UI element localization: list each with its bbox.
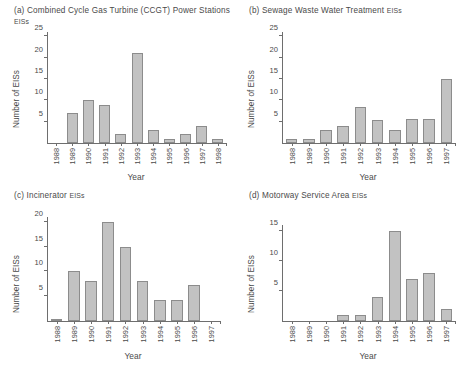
panel-b-x-tick	[446, 143, 447, 146]
panel-c-y-tick-label: 15	[35, 233, 43, 242]
bar	[320, 130, 332, 143]
bar-slot	[300, 225, 317, 321]
panel-c: (c) Incinerator EISs Number of EISs 5101…	[0, 185, 235, 370]
panel-c-title: (c) Incinerator EISs	[14, 191, 230, 202]
panel-d-y-tick	[279, 230, 283, 231]
panel-b-title-suffix: EISs	[387, 7, 402, 14]
bar-slot	[82, 217, 99, 321]
panel-a-x-tick-label: 1996	[181, 148, 190, 164]
bar-slot	[186, 217, 203, 321]
panel-b-y-tick	[279, 57, 283, 58]
bar-slot	[65, 217, 82, 321]
panel-a-x-tick-label: 1997	[197, 148, 206, 164]
panel-d-y-tick-label: 10	[270, 248, 278, 257]
bar	[441, 79, 453, 143]
bar	[372, 297, 384, 321]
panel-b-y-tick-label: 20	[270, 44, 278, 53]
bar	[355, 107, 367, 143]
panel-b-x-tick	[326, 143, 327, 146]
panel-b-x-tick-label: 1993	[373, 148, 382, 164]
bar-slot	[300, 32, 317, 143]
bar-slot	[117, 217, 134, 321]
panel-a-x-tick-label: 1994	[149, 148, 158, 164]
bar-slot	[100, 217, 117, 321]
panel-b-x-tick	[395, 143, 396, 146]
panel-c-title-main: (c) Incinerator	[14, 191, 69, 200]
panel-b-title-main: (b) Sewage Waste Water Treatment	[249, 6, 387, 15]
panel-a-x-tick	[202, 143, 203, 146]
panel-d-x-tick-label: 1997	[442, 326, 451, 342]
bar	[154, 300, 166, 321]
panel-a-x-tick	[186, 143, 187, 146]
panel-b-y-tick-label: 15	[270, 65, 278, 74]
panel-a-x-tick	[218, 143, 219, 146]
panel-c-y-axis-label: Number of EISs	[12, 255, 21, 313]
bar	[68, 271, 80, 321]
panel-a-x-tick	[72, 143, 73, 146]
panel-b-x-tick-label: 1994	[390, 148, 399, 164]
panel-b-x-tick-label: 1995	[408, 148, 417, 164]
bar-slot	[335, 32, 352, 143]
panel-c-x-tick-label: 1988	[52, 326, 61, 342]
panel-d: (d) Motorway Service Area EISs Number of…	[235, 185, 470, 370]
panel-c-x-tick	[125, 321, 126, 324]
panel-c-x-tick-label: 1994	[155, 326, 164, 342]
figure-panel-grid: (a) Combined Cycle Gas Turbine (CCGT) Po…	[0, 0, 470, 370]
panel-a-title-suffix: EISs	[14, 18, 29, 25]
panel-a-x-tick-label: 1989	[68, 148, 77, 164]
panel-b-x-tick-label: 1991	[339, 148, 348, 164]
bar-slot	[48, 217, 65, 321]
panel-d-x-tick	[412, 321, 413, 324]
panel-d-x-axis-label: Year	[282, 351, 454, 361]
bar-slot	[352, 32, 369, 143]
panel-d-x-tick-label: 1994	[390, 326, 399, 342]
panel-a-title-main: (a) Combined Cycle Gas Turbine (CCGT) Po…	[14, 6, 230, 15]
panel-d-title: (d) Motorway Service Area EISs	[249, 191, 465, 202]
bar-slot	[421, 32, 438, 143]
panel-c-y-tick-label: 10	[35, 258, 43, 267]
panel-a: (a) Combined Cycle Gas Turbine (CCGT) Po…	[0, 0, 235, 185]
panel-d-x-tick-label: 1990	[322, 326, 331, 342]
bar-slot	[421, 225, 438, 321]
panel-c-y-tick-label: 5	[39, 283, 43, 292]
panel-d-y-tick	[279, 260, 283, 261]
panel-c-x-tick	[194, 321, 195, 324]
panel-d-title-suffix: EISs	[352, 192, 367, 199]
panel-c-title-suffix: EISs	[69, 192, 84, 199]
panel-a-plot-area: 5101520251988198919901991199219931994199…	[47, 32, 226, 144]
panel-a-x-tick	[121, 143, 122, 146]
bar-slot	[178, 32, 194, 143]
panel-d-x-tick-label: 1988	[287, 326, 296, 342]
bar	[423, 273, 435, 321]
panel-d-x-tick-label: 1993	[373, 326, 382, 342]
panel-a-x-tick	[105, 143, 106, 146]
panel-d-y-tick-label: 15	[270, 218, 278, 227]
panel-a-x-tick-label: 1991	[100, 148, 109, 164]
panel-d-x-tick	[446, 321, 447, 324]
bar-slot	[438, 32, 455, 143]
bar-slot	[317, 32, 334, 143]
bar	[337, 126, 349, 143]
bar	[389, 231, 401, 321]
bar-slot	[145, 32, 161, 143]
panel-b-x-tick-label: 1990	[322, 148, 331, 164]
panel-d-x-tick	[309, 321, 310, 324]
panel-a-y-tick	[44, 121, 48, 122]
panel-a-x-tick	[169, 143, 170, 146]
bar-slot	[386, 32, 403, 143]
bar	[389, 130, 401, 143]
bar	[67, 113, 78, 143]
bar-slot	[403, 225, 420, 321]
panel-b-x-tick	[343, 143, 344, 146]
panel-c-y-tick	[44, 295, 48, 296]
bar	[196, 126, 207, 143]
panel-b-x-tick	[429, 143, 430, 146]
bar	[115, 134, 126, 143]
panel-b-y-tick	[279, 99, 283, 100]
panel-d-x-tick	[378, 321, 379, 324]
panel-c-x-tick	[211, 321, 212, 324]
panel-d-x-tick	[343, 321, 344, 324]
bar-slot	[335, 225, 352, 321]
panel-a-x-tick-label: 1995	[165, 148, 174, 164]
panel-c-y-tick	[44, 221, 48, 222]
